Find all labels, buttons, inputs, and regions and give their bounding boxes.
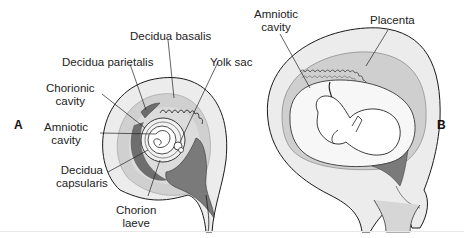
label-amniotic-cavity-b: Amniotic cavity [254, 8, 298, 34]
label-chorionic-cavity: Chorionic cavity [46, 82, 95, 108]
label-chorion-laeve: Chorion laeve [116, 204, 156, 230]
label-decidua-basalis: Decidua basalis [130, 30, 211, 43]
label-decidua-parietalis: Decidua parietalis [62, 56, 153, 69]
panel-b-letter: B [437, 118, 446, 132]
label-amniotic-cavity-a: Amniotic cavity [44, 121, 88, 147]
label-decidua-capsularis: Decidua capsularis [56, 164, 108, 190]
bottom-divider [0, 231, 464, 232]
diagram-artwork [0, 0, 464, 238]
pregnancy-stages-diagram: A Decidua basalis Decidua parietalis Yol… [0, 0, 464, 238]
label-placenta: Placenta [370, 14, 415, 27]
panel-a-letter: A [14, 118, 23, 132]
label-yolk-sac: Yolk sac [210, 56, 252, 69]
